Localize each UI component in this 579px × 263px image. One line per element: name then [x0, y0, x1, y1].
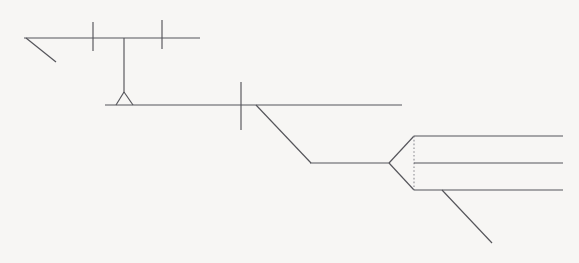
- canvas-background: [0, 0, 579, 263]
- schematic-svg: [0, 0, 579, 263]
- diagram-canvas: [0, 0, 579, 263]
